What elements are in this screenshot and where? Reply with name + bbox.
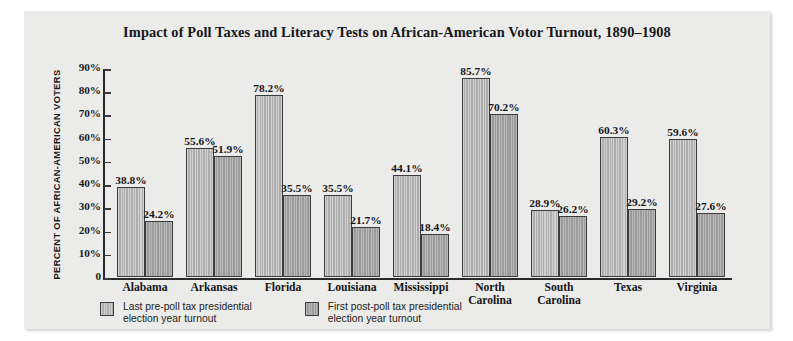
y-axis-tick-mark (104, 278, 111, 280)
bar-value-label: 18.4% (419, 221, 450, 233)
y-axis-tick-mark (104, 92, 111, 94)
bar[interactable]: 44.1% (393, 175, 421, 277)
x-axis-category-label: Arkansas (174, 282, 254, 295)
legend-label: Last pre-poll tax presidential election … (123, 301, 252, 325)
x-axis-category-label: Alabama (105, 282, 185, 295)
bar-value-label: 21.7% (350, 214, 381, 226)
x-axis-category-label: North Carolina (450, 282, 530, 307)
bar[interactable]: 28.9% (531, 210, 559, 277)
bar-value-label: 44.1% (391, 162, 422, 174)
bar-value-label: 26.2% (557, 203, 588, 215)
x-axis-category-label: South Carolina (519, 282, 599, 307)
y-axis-title: PERCENT OF AFRICAN-AMERICAN VOTERS (50, 0, 64, 69)
plot-area: 90%80%70%60%50%40%30%20%10%0 Alabama38.8… (103, 69, 741, 279)
bar[interactable]: 18.4% (421, 234, 449, 277)
y-axis-tick-mark (104, 139, 111, 141)
bar-value-label: 59.6% (667, 126, 698, 138)
legend-label: First post-poll tax presidential electio… (328, 301, 462, 325)
bar-value-label: 85.7% (460, 65, 491, 77)
bar-group: 78.2%35.5% (255, 68, 311, 277)
y-axis-tick-mark (104, 162, 111, 164)
bar[interactable]: 27.6% (697, 213, 725, 277)
bar-group: 85.7%70.2% (462, 68, 518, 277)
bar-value-label: 35.5% (281, 182, 312, 194)
y-axis-tick-label: 10% (79, 247, 101, 259)
chart-title: Impact of Poll Taxes and Literacy Tests … (24, 24, 770, 41)
bar[interactable]: 78.2% (255, 95, 283, 277)
y-axis-tick-mark (104, 185, 111, 187)
y-axis-tick-label: 40% (79, 177, 101, 189)
legend-item[interactable]: Last pre-poll tax presidential election … (100, 301, 252, 325)
y-axis-tick-mark (104, 232, 111, 234)
y-axis-tick-label: 90% (79, 61, 101, 73)
x-axis-category-label: Virginia (657, 282, 737, 295)
bar-value-label: 24.2% (143, 208, 174, 220)
bar[interactable]: 21.7% (352, 227, 380, 277)
chart-legend: Last pre-poll tax presidential election … (100, 301, 462, 325)
x-axis-category-label: Louisiana (312, 282, 392, 295)
x-axis-category-label: Texas (588, 282, 668, 295)
x-axis-line (103, 278, 732, 280)
y-axis-tick-label: 80% (79, 84, 101, 96)
bar-group: 28.9%26.2% (531, 68, 587, 277)
bar[interactable]: 55.6% (186, 148, 214, 277)
y-axis-tick-mark (104, 69, 111, 71)
bar[interactable]: 60.3% (600, 137, 628, 277)
y-axis-tick-label: 60% (79, 131, 101, 143)
bar[interactable]: 35.5% (324, 195, 352, 277)
bar-value-label: 27.6% (695, 200, 726, 212)
y-axis-title-label: PERCENT OF AFRICAN-AMERICAN VOTERS (50, 69, 64, 280)
bar[interactable]: 59.6% (669, 139, 697, 277)
bar[interactable]: 24.2% (145, 221, 173, 277)
bar-group: 59.6%27.6% (669, 68, 725, 277)
bar[interactable]: 38.8% (117, 187, 145, 277)
bar-value-label: 35.5% (322, 182, 353, 194)
bar-value-label: 70.2% (488, 101, 519, 113)
y-axis-tick-mark (104, 115, 111, 117)
y-axis-tick-label: 0 (95, 270, 101, 282)
bar-value-label: 60.3% (598, 124, 629, 136)
bar-value-label: 78.2% (253, 82, 284, 94)
y-axis-line (103, 69, 105, 280)
bar-group: 38.8%24.2% (117, 68, 173, 277)
x-axis-category-label: Mississippi (381, 282, 461, 295)
bar[interactable]: 29.2% (628, 209, 656, 277)
y-axis-tick-label: 70% (79, 107, 101, 119)
bar-group: 35.5%21.7% (324, 68, 380, 277)
legend-swatch (100, 302, 114, 316)
y-axis-tick-label: 50% (79, 154, 101, 166)
bar-value-label: 38.8% (115, 174, 146, 186)
y-axis-tick-label: 20% (79, 224, 101, 236)
y-axis-tick-mark (104, 255, 111, 257)
bar-group: 44.1%18.4% (393, 68, 449, 277)
bar[interactable]: 51.9% (214, 156, 242, 277)
bar-value-label: 51.9% (212, 143, 243, 155)
y-axis-tick-label: 30% (79, 200, 101, 212)
x-axis-category-label: Florida (243, 282, 323, 295)
legend-item[interactable]: First post-poll tax presidential electio… (305, 301, 462, 325)
bar[interactable]: 35.5% (283, 195, 311, 277)
bar-value-label: 29.2% (626, 196, 657, 208)
bar[interactable]: 70.2% (490, 114, 518, 277)
bar[interactable]: 85.7% (462, 78, 490, 277)
bar-value-label: 28.9% (529, 197, 560, 209)
chart-figure: Impact of Poll Taxes and Literacy Tests … (24, 11, 770, 329)
bar-group: 60.3%29.2% (600, 68, 656, 277)
bar-group: 55.6%51.9% (186, 68, 242, 277)
bar[interactable]: 26.2% (559, 216, 587, 277)
y-axis-tick-mark (104, 208, 111, 210)
bar-value-label: 55.6% (184, 135, 215, 147)
legend-swatch (305, 302, 319, 316)
